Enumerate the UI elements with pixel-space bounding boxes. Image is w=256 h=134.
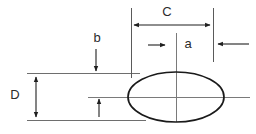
dimension-diagram: C a b D bbox=[0, 0, 256, 134]
label-c: C bbox=[162, 4, 171, 19]
label-b: b bbox=[93, 30, 100, 45]
label-d: D bbox=[10, 87, 19, 102]
diagram-canvas: C a b D bbox=[0, 0, 256, 134]
label-a: a bbox=[184, 36, 192, 51]
